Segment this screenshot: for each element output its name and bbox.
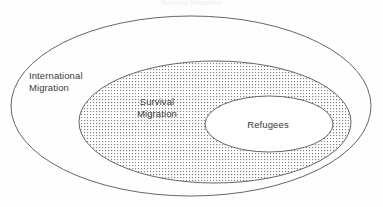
euler-diagram: Survival Migration International Migrati…: [0, 0, 383, 207]
label-international-migration: International Migration: [29, 70, 83, 94]
label-refugees: Refugees: [237, 119, 299, 131]
euler-diagram-svg: [0, 0, 383, 207]
label-survival-migration: Survival Migration: [125, 96, 189, 120]
